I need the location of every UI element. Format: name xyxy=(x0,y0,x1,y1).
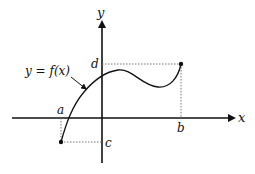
y-axis-label: y xyxy=(96,5,105,20)
point-label-c: c xyxy=(105,136,112,150)
label-pointer-arrow xyxy=(71,77,86,89)
function-label: y = f(x) xyxy=(24,64,70,78)
point-label-a: a xyxy=(57,103,64,117)
function-graph-diagram: y x y = f(x) d a b c xyxy=(0,0,255,174)
end-point xyxy=(179,62,183,66)
start-point xyxy=(59,140,63,144)
x-axis-label: x xyxy=(238,110,246,125)
point-label-d: d xyxy=(91,57,99,71)
point-label-b: b xyxy=(177,121,185,135)
function-curve xyxy=(61,64,181,142)
